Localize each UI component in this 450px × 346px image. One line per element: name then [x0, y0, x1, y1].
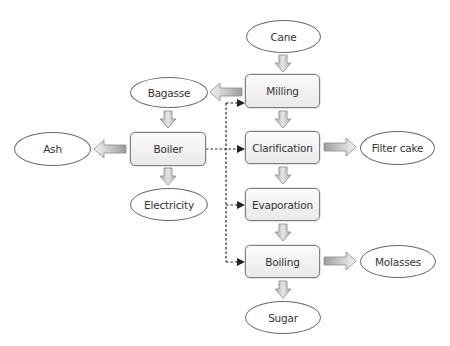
arrow-down-icon — [275, 281, 291, 298]
arrow-left-icon — [94, 140, 126, 158]
arrow-right-icon — [324, 138, 356, 156]
arrow-down-icon — [275, 111, 291, 128]
node-label: Filter cake — [372, 142, 424, 154]
node-cane: Cane — [246, 20, 321, 53]
node-bagasse: Bagasse — [130, 77, 208, 108]
node-filter-cake: Filter cake — [360, 131, 435, 165]
arrow-down-icon — [160, 168, 176, 185]
node-label: Milling — [266, 85, 299, 97]
arrow-down-icon — [275, 224, 291, 241]
node-evaporation: Evaporation — [245, 188, 320, 221]
node-milling: Milling — [245, 74, 320, 108]
node-molasses: Molasses — [360, 245, 436, 278]
node-label: Boiling — [265, 256, 299, 268]
node-label: Sugar — [268, 312, 298, 324]
node-electricity: Electricity — [130, 188, 208, 221]
node-clarification: Clarification — [245, 131, 320, 164]
arrow-down-icon — [275, 167, 291, 184]
node-sugar: Sugar — [245, 301, 321, 334]
node-label: Electricity — [144, 199, 194, 211]
arrow-left-icon — [210, 83, 242, 101]
node-boiling: Boiling — [245, 245, 320, 278]
node-label: Boiler — [153, 143, 182, 155]
dashed-energy-lines — [206, 103, 244, 262]
arrow-down-icon — [275, 55, 291, 72]
arrow-right-icon — [324, 252, 356, 270]
node-label: Cane — [270, 31, 296, 43]
node-ash: Ash — [14, 132, 91, 166]
node-boiler: Boiler — [130, 132, 206, 166]
flow-connectors — [0, 0, 450, 346]
node-label: Ash — [43, 143, 62, 155]
node-label: Clarification — [252, 142, 312, 154]
node-label: Molasses — [375, 256, 421, 268]
node-label: Evaporation — [252, 199, 313, 211]
arrow-down-icon — [160, 111, 176, 128]
node-label: Bagasse — [148, 87, 191, 99]
